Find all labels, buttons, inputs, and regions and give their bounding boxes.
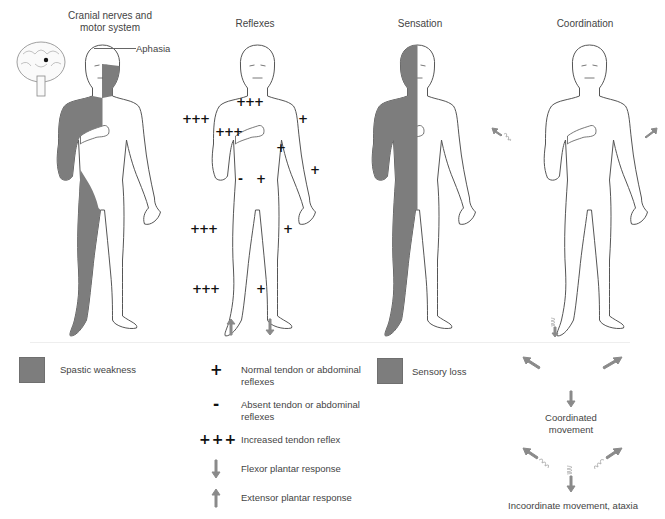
- legend-separator: [30, 342, 630, 343]
- figure-coordination: [527, 40, 652, 340]
- reflex-mark: +: [298, 113, 307, 125]
- reflex-mark: -: [238, 173, 242, 185]
- aphasia-label: Aphasia: [136, 43, 170, 55]
- reflex-mark: +++: [182, 113, 209, 125]
- legend-minus-symbol: -: [213, 398, 218, 410]
- legend-plus-symbol: +: [210, 364, 222, 376]
- sensory-loss-swatch: [377, 358, 403, 384]
- title-line-2: motor system: [40, 22, 180, 34]
- reflex-mark: +++: [236, 96, 263, 108]
- reflex-mark: +++: [192, 283, 219, 295]
- reflex-mark: +: [256, 173, 265, 185]
- extensor-plantar-arrow-icon: [226, 318, 236, 336]
- reflex-mark: +: [276, 142, 285, 154]
- panel-title-coordination: Coordination: [540, 18, 630, 30]
- coordinated-arrow-right-icon: [643, 127, 659, 139]
- legend-spastic-weakness: Spastic weakness: [60, 364, 136, 376]
- legend-increased-symbol: +++: [199, 433, 237, 445]
- panel-title-sensation: Sensation: [385, 18, 455, 30]
- flexor-plantar-arrow-icon: [265, 318, 275, 336]
- figure-motor: [40, 40, 165, 340]
- legend-flexor-arrow-icon: [211, 459, 221, 479]
- legend-increased-reflex: Increased tendon reflex: [241, 434, 340, 446]
- legend-flexor-plantar: Flexor plantar response: [241, 463, 341, 475]
- legend-normal-reflex: Normal tendon or abdominal reflexes: [241, 364, 361, 388]
- legend-sensory-loss: Sensory loss: [412, 366, 466, 378]
- aphasia-callout-line: [94, 48, 136, 49]
- legend-incoordinate-movement: Incoordinate movement, ataxia: [493, 500, 653, 512]
- reflex-mark: +++: [190, 223, 217, 235]
- spastic-weakness-swatch: [19, 357, 45, 383]
- reflex-mark: +: [283, 223, 292, 235]
- coordinated-movement-icon: [520, 355, 625, 410]
- incoordinate-movement-icon: [520, 446, 625, 496]
- ataxia-arrow-left-icon: [490, 126, 516, 142]
- reflex-mark: +: [256, 283, 265, 295]
- panel-title-cranial: Cranial nerves and motor system: [40, 10, 180, 34]
- figure-sensation: [355, 40, 480, 340]
- legend-extensor-arrow-icon: [211, 488, 221, 508]
- panel-title-reflexes: Reflexes: [215, 18, 295, 30]
- reflex-mark: +++: [215, 126, 242, 138]
- ataxia-arrow-down-icon: [548, 316, 562, 338]
- reflex-mark: +: [310, 164, 319, 176]
- legend-coordinated-movement: Coordinated movement: [523, 412, 619, 436]
- legend-extensor-plantar: Extensor plantar response: [241, 492, 352, 504]
- title-line-1: Cranial nerves and: [40, 10, 180, 22]
- legend-absent-reflex: Absent tendon or abdominal reflexes: [241, 399, 361, 423]
